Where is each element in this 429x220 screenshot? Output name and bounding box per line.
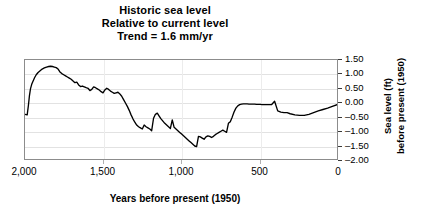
y-axis-tick-label: 0.00 [345, 97, 364, 107]
y-axis-tick [338, 117, 342, 118]
y-axis-tick [338, 160, 342, 161]
y-axis-title: Sea level (ft) before present (1950) [382, 0, 426, 46]
y-axis-tick-label: –1.50 [345, 141, 369, 151]
x-axis-tick [260, 160, 261, 164]
x-axis-tick [181, 160, 182, 164]
y-axis-tick-label: –2.00 [345, 155, 369, 165]
y-axis-tick [338, 88, 342, 89]
y-axis-title-line-1: Sea level (ft) [382, 46, 393, 166]
y-axis-tick-label: 1.50 [345, 54, 364, 64]
x-axis-title: Years before present (1950) [0, 193, 350, 204]
y-axis-tick [338, 59, 342, 60]
x-axis-tick-label: 0 [335, 166, 341, 177]
data-series-line [25, 60, 337, 159]
y-axis-ticks [338, 59, 342, 160]
y-axis-tick-label: –1.00 [345, 126, 369, 136]
x-axis-tick-label: 1,000 [168, 166, 193, 177]
y-axis-tick [338, 73, 342, 74]
y-axis-tick-label: –0.50 [345, 112, 369, 122]
x-axis-tick [103, 160, 104, 164]
x-axis-tick-labels: 2,0001,5001,0005000 [0, 166, 429, 180]
y-axis-tick [338, 146, 342, 147]
y-axis-tick [338, 102, 342, 103]
chart-title-line-1: Historic sea level [0, 4, 330, 17]
chart-title-line-2: Relative to current level [0, 17, 330, 30]
plot-area [24, 59, 338, 160]
chart-title-line-3: Trend = 1.6 mm/yr [0, 30, 330, 43]
x-axis-tick-label: 1,500 [90, 166, 115, 177]
y-axis-tick-label: 0.50 [345, 83, 364, 93]
x-axis-ticks [24, 160, 338, 164]
y-axis-tick [338, 131, 342, 132]
chart-title: Historic sea level Relative to current l… [0, 4, 330, 43]
sea-level-chart: Historic sea level Relative to current l… [0, 0, 429, 220]
y-axis-tick-label: 1.00 [345, 68, 364, 78]
y-axis-tick-labels: 1.501.000.500.00–0.50–1.00–1.50–2.00 [345, 52, 377, 167]
y-axis-title-line-2: before present (1950) [395, 46, 406, 166]
x-axis-tick-label: 500 [251, 166, 268, 177]
x-axis-tick-label: 2,000 [11, 166, 36, 177]
